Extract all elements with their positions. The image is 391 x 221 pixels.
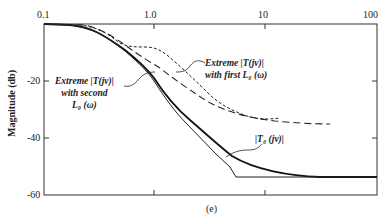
y-label-20: -20 bbox=[27, 75, 40, 86]
figure-caption: (e) bbox=[206, 203, 217, 214]
annotation-second: Extreme |T(jv)| with second L₀ (ω) bbox=[55, 75, 114, 111]
x-label-0-1: 0.1 bbox=[37, 9, 50, 20]
annotation-second-line2: with second bbox=[55, 87, 114, 99]
y-axis-title: Magnitude (db) bbox=[6, 70, 17, 137]
annotation-first-line2: with first L₀ (ω) bbox=[205, 69, 267, 81]
annotation-second-line3: L₀ (ω) bbox=[55, 99, 114, 111]
x-label-100: 100 bbox=[363, 9, 378, 20]
annotation-second-line1: Extreme |T(jv)| bbox=[55, 75, 114, 87]
annotation-To: |T₀ (jv)| bbox=[255, 133, 284, 145]
y-label-40: -40 bbox=[27, 132, 40, 143]
annotation-first-line1: Extreme |T(jv)| bbox=[205, 57, 267, 69]
y-label-60: -60 bbox=[27, 189, 40, 200]
annotation-first: Extreme |T(jv)| with first L₀ (ω) bbox=[205, 57, 267, 81]
x-label-10: 10 bbox=[258, 9, 268, 20]
x-label-1: 1.0 bbox=[144, 9, 157, 20]
